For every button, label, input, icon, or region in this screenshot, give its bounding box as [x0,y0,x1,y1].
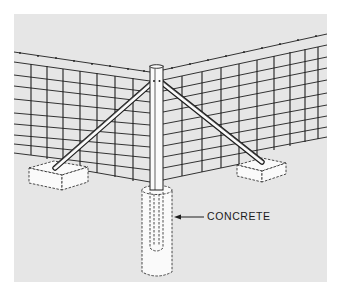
corner-post [150,65,163,190]
post-bolt-left [153,80,155,82]
fence-corner-diagram [0,0,345,289]
concrete-label: CONCRETE [207,210,271,222]
post-footing [142,186,172,277]
post-bolt-right [159,80,161,82]
